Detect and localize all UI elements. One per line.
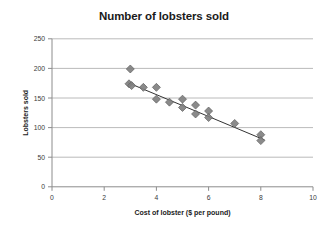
data-point xyxy=(192,101,200,109)
x-tick-label: 2 xyxy=(102,194,106,201)
x-tick-label: 0 xyxy=(50,194,54,201)
x-tick-label: 8 xyxy=(259,194,263,201)
data-point xyxy=(192,110,200,118)
data-point xyxy=(257,137,265,145)
x-tick-label: 10 xyxy=(309,194,317,201)
chart-plot-area: 250 200 150 100 50 0 0 2 4 6 8 10 Cost o… xyxy=(0,0,328,226)
scatter-chart: Number of lobsters sold xyxy=(0,0,328,226)
x-tick-labels: 0 2 4 6 8 10 xyxy=(50,194,317,201)
data-point xyxy=(126,65,134,73)
y-tick-label: 0 xyxy=(41,183,45,190)
y-tick-label: 100 xyxy=(34,124,46,131)
x-axis-title: Cost of lobster ($ per pound) xyxy=(134,209,230,217)
data-point xyxy=(152,95,160,103)
y-tick-label: 250 xyxy=(34,35,46,42)
data-point xyxy=(152,83,160,91)
x-tick-label: 4 xyxy=(155,194,159,201)
y-tick-label: 50 xyxy=(37,154,45,161)
x-tick-label: 6 xyxy=(207,194,211,201)
data-point-group xyxy=(125,65,265,145)
y-tick-label: 200 xyxy=(34,65,46,72)
y-tick-label: 150 xyxy=(34,95,46,102)
y-axis-title: Lobsters sold xyxy=(22,90,29,136)
data-point xyxy=(205,114,213,122)
y-axis xyxy=(48,39,52,187)
y-tick-labels: 250 200 150 100 50 0 xyxy=(34,35,46,190)
data-point xyxy=(179,95,187,103)
x-axis xyxy=(52,187,313,191)
